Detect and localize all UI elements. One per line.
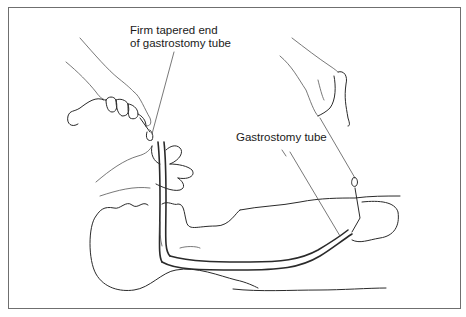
right-hand (280, 38, 350, 126)
left-upper-hand (66, 38, 151, 126)
label-firm-line-1: Firm tapered end (130, 24, 231, 37)
patient-body (90, 196, 400, 291)
leader-line-tick (282, 150, 286, 156)
leader-line-firm-end (152, 52, 174, 134)
tube-horizontal (160, 222, 352, 270)
label-gastrostomy-tube: Gastrostomy tube (236, 131, 327, 144)
leader-line-gastrostomy-tube (290, 152, 340, 236)
label-gastro-line-1: Gastrostomy tube (236, 131, 327, 144)
tube-vertical (140, 118, 170, 262)
label-firm-tapered-end: Firm tapered end of gastrostomy tube (130, 24, 231, 50)
label-firm-line-2: of gastrostomy tube (130, 37, 231, 50)
gastrostomy-illustration (0, 0, 466, 317)
left-lower-hand (96, 146, 193, 196)
